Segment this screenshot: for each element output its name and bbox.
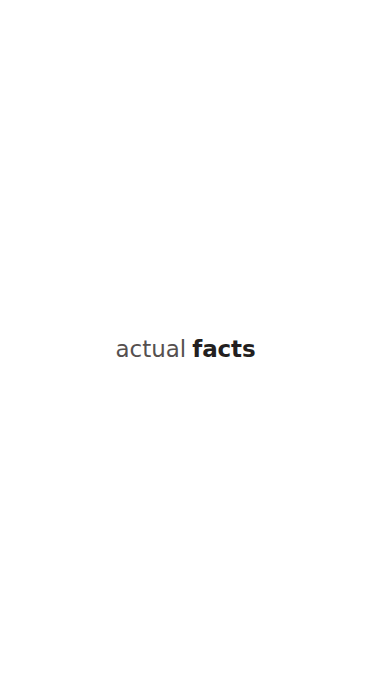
statement-word-facts: facts — [192, 336, 255, 362]
statement-word-actual: actual — [115, 336, 186, 362]
page-canvas: actualfacts — [0, 0, 371, 698]
statement-text: actualfacts — [0, 338, 371, 361]
